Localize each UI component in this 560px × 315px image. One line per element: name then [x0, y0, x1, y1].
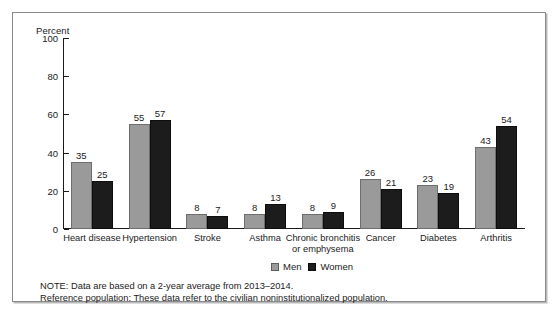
category-label: Arthritis — [480, 233, 512, 244]
legend-label: Women — [320, 261, 353, 272]
bar-men[interactable]: 43 — [475, 147, 496, 229]
note-line-1: NOTE: Data are based on a 2-year average… — [40, 281, 388, 293]
y-tick-label: 0 — [53, 224, 58, 235]
category-label: Stroke — [194, 233, 221, 244]
bar-women[interactable]: 57 — [150, 120, 171, 229]
category-label-line: or emphysema — [286, 244, 360, 255]
bar-value-label: 55 — [134, 112, 145, 123]
bar-men[interactable]: 55 — [129, 124, 150, 229]
bar-pair: 5557 — [121, 38, 179, 229]
bar-pair: 3525 — [63, 38, 121, 229]
bar-value-label: 8 — [310, 202, 315, 213]
bar-value-label: 25 — [97, 169, 108, 180]
bar-women[interactable]: 21 — [381, 189, 402, 229]
bar-pair: 813 — [236, 38, 294, 229]
bar-men[interactable]: 8 — [186, 214, 207, 229]
legend: MenWomen — [271, 261, 353, 272]
bar-women[interactable]: 9 — [323, 212, 344, 229]
legend-label: Men — [283, 261, 301, 272]
bar-value-label: 13 — [270, 192, 281, 203]
bar-pair: 2319 — [410, 38, 468, 229]
bar-group: 89Chronic bronchitisor emphysema — [294, 38, 352, 229]
category-label-line: Stroke — [194, 233, 221, 243]
bar-women[interactable]: 19 — [438, 193, 459, 229]
category-label-line: Chronic bronchitis — [286, 233, 360, 243]
bar-men[interactable]: 23 — [417, 185, 438, 229]
legend-item-women[interactable]: Women — [308, 261, 353, 272]
category-label: Hypertension — [122, 233, 177, 244]
category-label: Cancer — [366, 233, 396, 244]
category-label-line: Heart disease — [63, 233, 120, 243]
bar-women[interactable]: 54 — [496, 126, 517, 229]
bar-value-label: 8 — [252, 202, 257, 213]
bar-men[interactable]: 26 — [360, 179, 381, 229]
bar-group: 813Asthma — [236, 38, 294, 229]
figure-notes: NOTE: Data are based on a 2-year average… — [40, 281, 388, 304]
legend-item-men[interactable]: Men — [271, 261, 301, 272]
bar-value-label: 57 — [155, 108, 166, 119]
figure-panel: Percent 020406080100 3525Heart disease55… — [12, 12, 546, 302]
bar-value-label: 26 — [365, 167, 376, 178]
bar-men[interactable]: 8 — [244, 214, 265, 229]
category-label-line: Cancer — [366, 233, 396, 243]
bar-value-label: 54 — [501, 114, 512, 125]
bar-pair: 2621 — [352, 38, 410, 229]
y-tick-label: 80 — [47, 71, 58, 82]
bar-group: 3525Heart disease — [63, 38, 121, 229]
category-label: Asthma — [249, 233, 281, 244]
y-tick-label: 20 — [47, 185, 58, 196]
bar-value-label: 8 — [194, 202, 199, 213]
bar-group: 87Stroke — [179, 38, 237, 229]
bar-men[interactable]: 8 — [302, 214, 323, 229]
bar-group: 2621Cancer — [352, 38, 410, 229]
y-tick-label: 40 — [47, 147, 58, 158]
bar-men[interactable]: 35 — [71, 162, 92, 229]
bar-group: 2319Diabetes — [410, 38, 468, 229]
bar-pair: 89 — [294, 38, 352, 229]
y-tick-label: 60 — [47, 109, 58, 120]
category-label-line: Asthma — [249, 233, 281, 243]
bar-value-label: 35 — [76, 150, 87, 161]
category-label-line: Hypertension — [122, 233, 177, 243]
y-tick-mark — [64, 229, 69, 230]
bar-value-label: 43 — [480, 135, 491, 146]
category-label: Heart disease — [63, 233, 120, 244]
category-label-line: Arthritis — [480, 233, 512, 243]
men-swatch — [271, 263, 279, 271]
bar-value-label: 9 — [331, 200, 336, 211]
note-line-2: Reference population: These data refer t… — [40, 293, 388, 305]
bar-value-label: 23 — [423, 173, 434, 184]
category-label: Diabetes — [420, 233, 457, 244]
women-swatch — [308, 263, 316, 271]
bar-women[interactable]: 13 — [265, 204, 286, 229]
bar-women[interactable]: 25 — [92, 181, 113, 229]
bar-value-label: 19 — [444, 181, 455, 192]
y-tick-label: 100 — [42, 33, 58, 44]
bar-pair: 87 — [179, 38, 237, 229]
bar-pair: 4354 — [467, 38, 525, 229]
bar-group: 4354Arthritis — [467, 38, 525, 229]
bar-group: 5557Hypertension — [121, 38, 179, 229]
category-label-line: Diabetes — [420, 233, 457, 243]
bar-value-label: 7 — [215, 204, 220, 215]
category-label: Chronic bronchitisor emphysema — [286, 233, 360, 254]
plot-area: 020406080100 3525Heart disease5557Hypert… — [63, 38, 529, 229]
bar-value-label: 21 — [386, 177, 397, 188]
bar-women[interactable]: 7 — [207, 216, 228, 229]
